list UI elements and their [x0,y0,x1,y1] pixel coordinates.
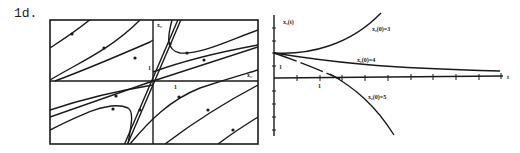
t-axis-label: t [507,74,509,80]
label-x2-4: x₂(0)=4 [357,57,375,64]
curve-x2-5 [330,74,394,135]
x1-axis-label: x₁ [247,72,252,78]
x1t-axis-label: x₁(t) [283,19,294,26]
curve-x2-5-dashed-part [274,53,340,79]
label-x2-3: x₂(0)=3 [372,26,390,33]
phase-portrait: x₂ x₁ 1 1 [50,15,258,150]
x1-tick-label: 1 [174,84,177,90]
time-plot: x₁(t) t 1 1 x₂(0)=3 x₂(0)=4 x₂(0)=5 [272,13,509,136]
x2-axis-label: x₂ [157,22,162,28]
label-x2-5: x₂(0)=5 [368,94,386,101]
figure-canvas: x₂ x₁ 1 1 [0,0,520,153]
curve-x2-4 [274,53,500,71]
y-tick-label: 1 [279,64,282,70]
x2-tick-label: 1 [148,65,151,71]
t-tick-label: 1 [318,83,321,89]
separatrix-steep-2 [125,15,183,150]
